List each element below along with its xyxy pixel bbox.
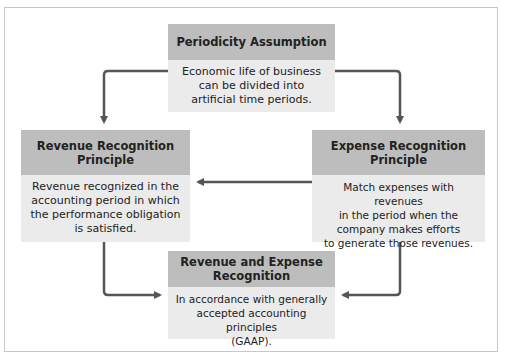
- box-periodicity-assumption: Periodicity Assumption Economic life of …: [168, 24, 335, 112]
- arrow-periodicity-to-expense: [335, 71, 400, 122]
- box-title: Revenue Recognition Principle: [21, 130, 190, 175]
- box-revenue-recognition: Revenue Recognition Principle Revenue re…: [21, 130, 190, 242]
- box-title: Revenue and Expense Recognition: [168, 251, 335, 287]
- box-body: In accordance with generally accepted ac…: [168, 287, 335, 339]
- box-body: Economic life of business can be divided…: [168, 60, 335, 112]
- box-revenue-and-expense-recognition: Revenue and Expense Recognition In accor…: [168, 251, 335, 339]
- box-body: Match expenses with revenues in the peri…: [312, 175, 485, 242]
- box-title: Expense Recognition Principle: [312, 130, 485, 175]
- arrow-periodicity-to-revenue: [104, 71, 168, 122]
- box-expense-recognition: Expense Recognition Principle Match expe…: [312, 130, 485, 242]
- box-title: Periodicity Assumption: [168, 24, 335, 60]
- box-body: Revenue recognized in the accounting per…: [21, 175, 190, 242]
